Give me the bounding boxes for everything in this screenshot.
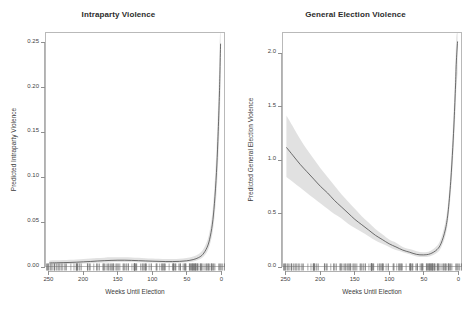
- x-tick-mark: [221, 271, 222, 275]
- panel-title: Intraparty Violence: [0, 10, 237, 19]
- plot-area-right: [282, 32, 462, 267]
- x-tick-mark: [458, 271, 459, 275]
- x-tick-mark: [320, 271, 321, 275]
- x-tick-label: 200: [78, 276, 88, 282]
- y-tick-label: 0.05: [27, 217, 39, 223]
- x-tick-mark: [117, 271, 118, 275]
- x-tick-mark: [354, 271, 355, 275]
- x-tick-label: 50: [421, 276, 428, 282]
- plot-svg-right: [283, 33, 461, 266]
- confidence-band: [49, 33, 220, 264]
- x-tick-mark: [186, 271, 187, 275]
- y-tick-label: 0.00: [27, 262, 39, 268]
- confidence-band: [286, 33, 457, 257]
- y-tick-label: 0.20: [27, 83, 39, 89]
- panel-title: General Election Violence: [237, 10, 474, 19]
- panel-general-election-violence: General Election Violence 0.00.51.01.52.…: [237, 0, 474, 315]
- plot-svg-left: [46, 33, 224, 266]
- x-tick-mark: [423, 271, 424, 275]
- x-tick-label: 0: [220, 276, 223, 282]
- x-tick-label: 200: [315, 276, 325, 282]
- fit-line: [286, 41, 457, 254]
- x-tick-label: 0: [457, 276, 460, 282]
- fit-line: [49, 44, 220, 263]
- figure-root: Intraparty Violence 0.000.050.100.150.20…: [0, 0, 474, 315]
- plot-area-left: [45, 32, 225, 267]
- x-tick-label: 150: [113, 276, 123, 282]
- panel-intraparty-violence: Intraparty Violence 0.000.050.100.150.20…: [0, 0, 237, 315]
- x-tick-label: 250: [43, 276, 53, 282]
- x-tick-label: 100: [147, 276, 157, 282]
- y-tick-label: 1.5: [268, 102, 276, 108]
- y-axis-right: 0.00.51.01.52.0: [237, 32, 282, 267]
- y-axis-title: Predicted General Election Violence: [245, 32, 257, 267]
- x-tick-mark: [83, 271, 84, 275]
- x-axis-line: [285, 271, 458, 272]
- x-tick-label: 250: [280, 276, 290, 282]
- x-tick-label: 50: [184, 276, 191, 282]
- y-tick-label: 2.0: [268, 48, 276, 54]
- y-tick-label: 0.15: [27, 127, 39, 133]
- x-axis-line: [48, 271, 221, 272]
- y-tick-label: 0.10: [27, 172, 39, 178]
- y-tick-label: 1.0: [268, 155, 276, 161]
- x-tick-mark: [285, 271, 286, 275]
- x-axis-title: Weeks Until Election: [45, 288, 225, 295]
- y-tick-label: 0.0: [268, 262, 276, 268]
- y-axis-left: 0.000.050.100.150.200.25: [0, 32, 45, 267]
- x-tick-label: 100: [384, 276, 394, 282]
- x-tick-mark: [48, 271, 49, 275]
- x-tick-mark: [152, 271, 153, 275]
- y-tick-label: 0.5: [268, 209, 276, 215]
- x-tick-label: 150: [350, 276, 360, 282]
- y-axis-title: Predicted Intraparty Violence: [8, 32, 20, 267]
- x-axis-title: Weeks Until Election: [282, 288, 462, 295]
- x-tick-mark: [389, 271, 390, 275]
- y-tick-label: 0.25: [27, 38, 39, 44]
